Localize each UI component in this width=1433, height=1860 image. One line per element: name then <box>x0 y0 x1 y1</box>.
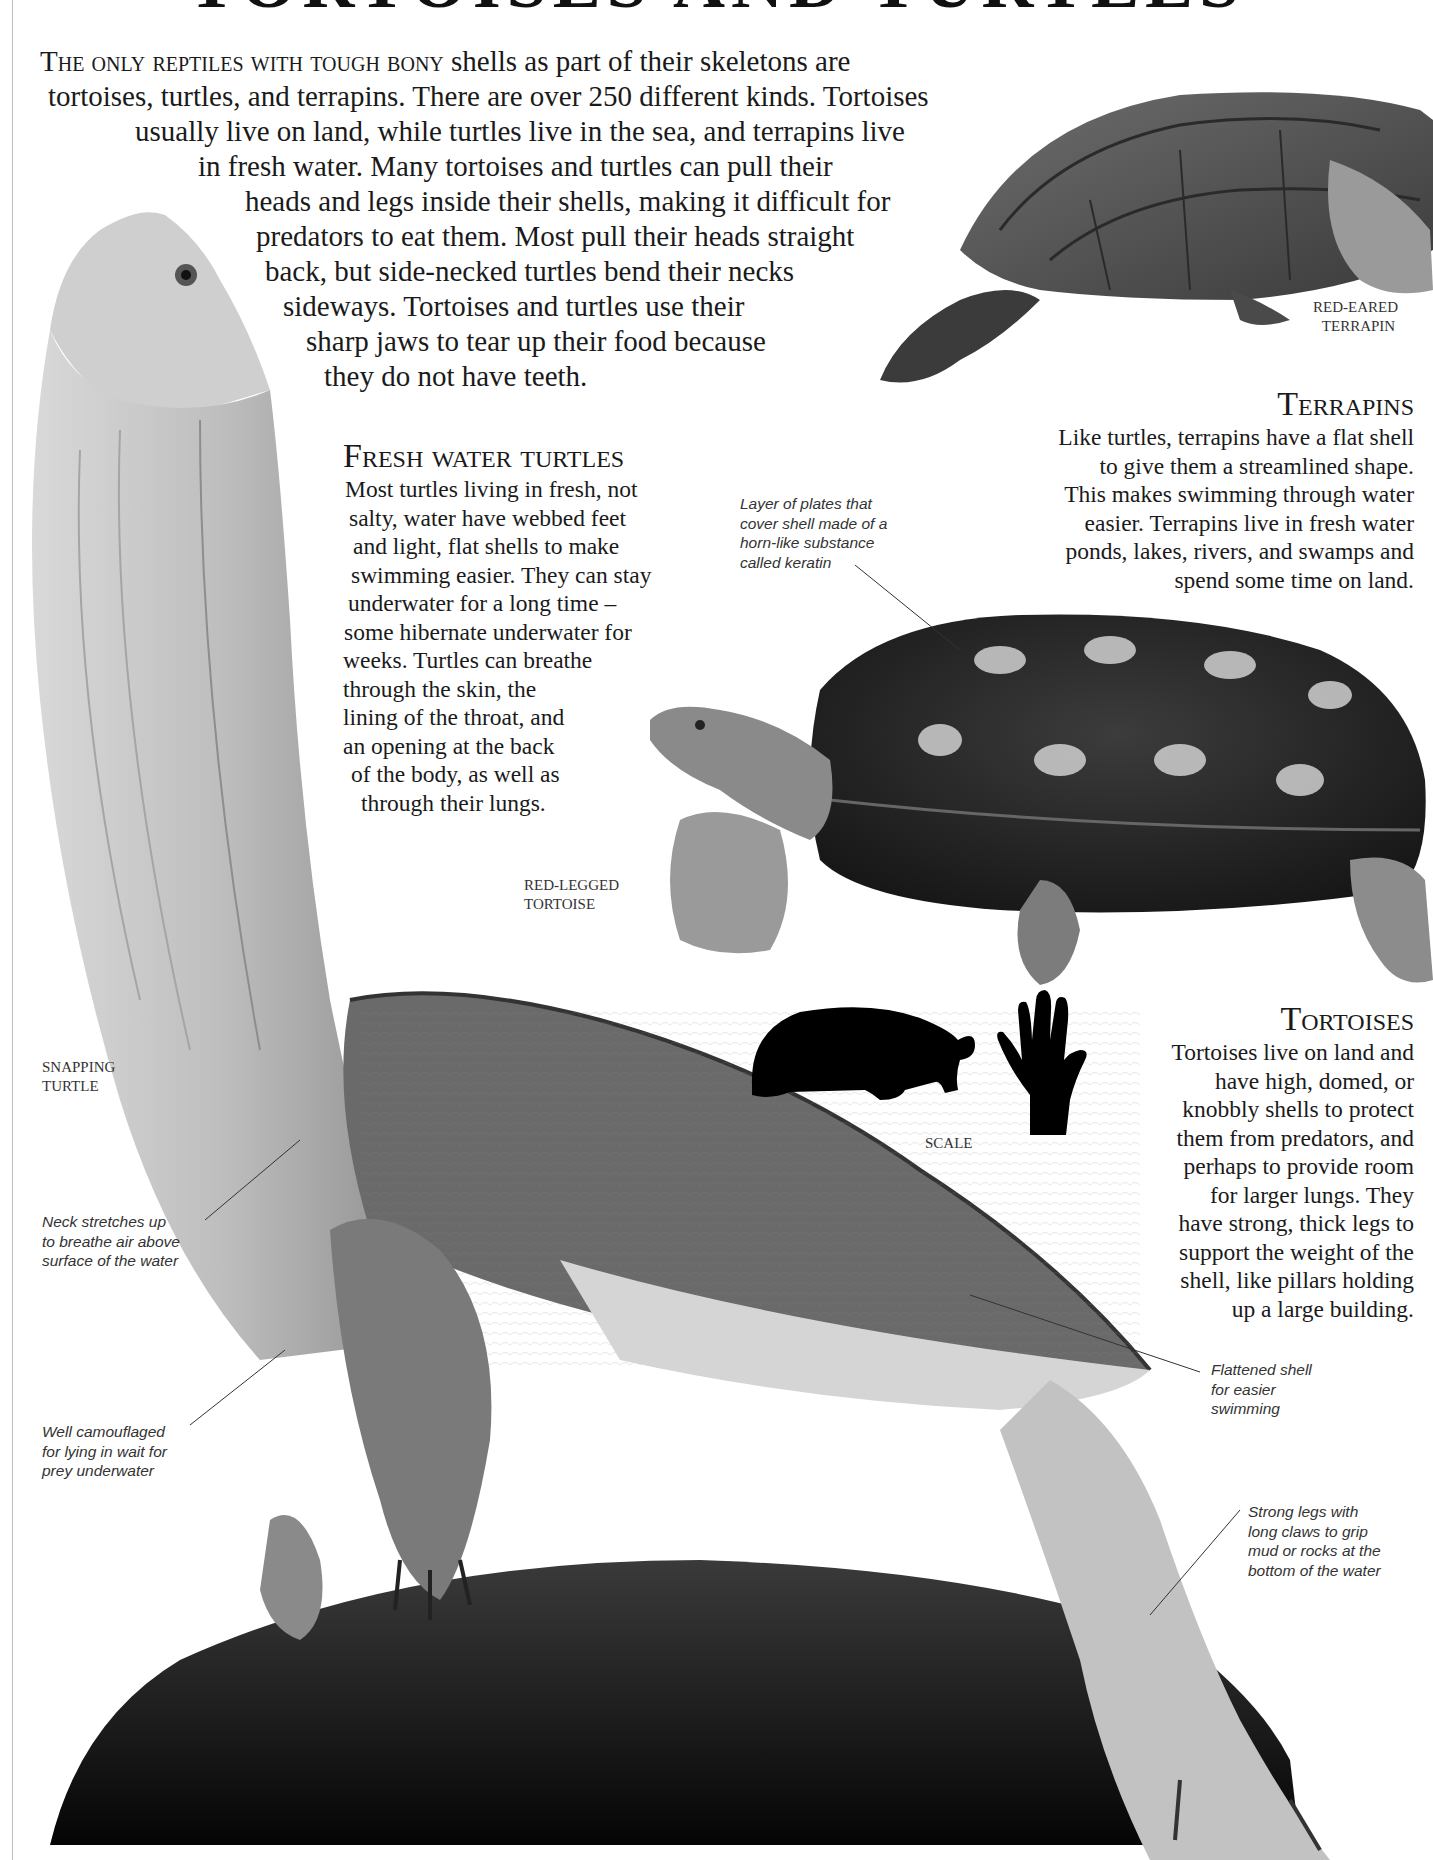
section-heading: Terrapins <box>990 385 1414 423</box>
body-line: Like turtles, terrapins have a flat shel… <box>990 423 1414 452</box>
annotation-line: swimming <box>1211 1399 1312 1419</box>
body-line: have strong, thick legs to <box>1110 1209 1414 1238</box>
section-body: Like turtles, terrapins have a flat shel… <box>990 423 1414 594</box>
intro-line: sharp jaws to tear up their food because <box>306 324 766 359</box>
annotation-line: mud or rocks at the <box>1248 1541 1381 1561</box>
annotation-camouflage: Well camouflaged for lying in wait for p… <box>42 1422 167 1481</box>
body-line: spend some time on land. <box>990 566 1414 595</box>
intro-line: sideways. Tortoises and turtles use thei… <box>283 289 744 324</box>
caption-line: Snapping <box>42 1058 115 1077</box>
body-line: This makes swimming through water <box>990 480 1414 509</box>
body-line: weeks. Turtles can breathe <box>343 646 703 675</box>
annotation-line: to breathe air above <box>42 1232 180 1252</box>
annotation-line: Layer of plates that <box>740 494 887 514</box>
annotation-line: Flattened shell <box>1211 1360 1312 1380</box>
page-title: TORTOISES AND TURTLES <box>0 0 1433 14</box>
intro-line: in fresh water. Many tortoises and turtl… <box>198 149 833 184</box>
caption-line: turtle <box>42 1077 115 1096</box>
annotation-line: for lying in wait for <box>42 1442 167 1462</box>
annotation-keratin: Layer of plates that cover shell made of… <box>740 494 887 572</box>
section-tortoises: Tortoises Tortoises live on land and hav… <box>1110 1000 1414 1323</box>
body-line: underwater for a long time – <box>343 589 703 618</box>
body-line: shell, like pillars holding <box>1110 1266 1414 1295</box>
caption-line: tortoise <box>524 895 619 914</box>
annotation-line: bottom of the water <box>1248 1561 1381 1581</box>
annotation-line: called keratin <box>740 553 887 573</box>
annotation-line: for easier <box>1211 1380 1312 1400</box>
body-line: through their lungs. <box>343 789 703 818</box>
caption-line: Red-legged <box>524 876 619 895</box>
annotation-line: Well camouflaged <box>42 1422 167 1442</box>
intro-line: tortoises, turtles, and terrapins. There… <box>48 79 929 114</box>
annotation-line: cover shell made of a <box>740 514 887 534</box>
annotation-flattened-shell: Flattened shell for easier swimming <box>1211 1360 1312 1419</box>
section-body: Tortoises live on land and have high, do… <box>1110 1038 1414 1323</box>
body-line: perhaps to provide room <box>1110 1152 1414 1181</box>
body-line: swimming easier. They can stay <box>343 561 703 590</box>
intro-line: back, but side-necked turtles bend their… <box>265 254 794 289</box>
intro-line: they do not have teeth. <box>324 359 587 394</box>
section-body: Most turtles living in fresh, not salty,… <box>343 475 703 817</box>
annotation-line: surface of the water <box>42 1251 180 1271</box>
photo-terrapin <box>880 92 1433 382</box>
body-line: and light, flat shells to make <box>343 532 703 561</box>
body-line: have high, domed, or <box>1110 1067 1414 1096</box>
annotation-neck: Neck stretches up to breathe air above s… <box>42 1212 180 1271</box>
annotation-line: prey underwater <box>42 1461 167 1481</box>
caption-line: Red-eared <box>1313 298 1398 317</box>
photo-tortoise <box>650 614 1433 985</box>
intro-line-1-rest: shells as part of their skeletons are <box>444 45 851 77</box>
body-line: to give them a streamlined shape. <box>990 452 1414 481</box>
body-line: an opening at the back <box>343 732 703 761</box>
intro-line: predators to eat them. Most pull their h… <box>256 219 854 254</box>
body-line: lining of the throat, and <box>343 703 703 732</box>
body-line: Tortoises live on land and <box>1110 1038 1414 1067</box>
body-line: Most turtles living in fresh, not <box>343 475 703 504</box>
annotation-line: horn-like substance <box>740 533 887 553</box>
section-terrapins: Terrapins Like turtles, terrapins have a… <box>990 385 1414 594</box>
body-line: ponds, lakes, rivers, and swamps and <box>990 537 1414 566</box>
annotation-strong-legs: Strong legs with long claws to grip mud … <box>1248 1502 1381 1580</box>
body-line: knobbly shells to protect <box>1110 1095 1414 1124</box>
annotation-line: Strong legs with <box>1248 1502 1381 1522</box>
body-line: support the weight of the <box>1110 1238 1414 1267</box>
body-line: them from predators, and <box>1110 1124 1414 1153</box>
caption-snapping-turtle: Snapping turtle <box>42 1058 115 1096</box>
caption-line: terrapin <box>1313 317 1398 336</box>
intro-lead-smallcaps: The only reptiles with tough bony <box>40 45 444 77</box>
intro-line-1: The only reptiles with tough bony shells… <box>40 44 850 79</box>
body-line: for larger lungs. They <box>1110 1181 1414 1210</box>
body-line: of the body, as well as <box>343 760 703 789</box>
section-heading: Tortoises <box>1110 1000 1414 1038</box>
intro-line: usually live on land, while turtles live… <box>135 114 905 149</box>
caption-red-eared-terrapin: Red-eared terrapin <box>1313 298 1398 336</box>
body-line: easier. Terrapins live in fresh water <box>990 509 1414 538</box>
intro-line: heads and legs inside their shells, maki… <box>245 184 890 219</box>
page-title-clip: TORTOISES AND TURTLES <box>0 0 1433 14</box>
section-fresh-water-turtles: Fresh water turtles Most turtles living … <box>343 437 703 817</box>
body-line: salty, water have webbed feet <box>343 504 703 533</box>
caption-scale: Scale <box>925 1134 973 1153</box>
body-line: some hibernate underwater for <box>343 618 703 647</box>
annotation-line: Neck stretches up <box>42 1212 180 1232</box>
body-line: through the skin, the <box>343 675 703 704</box>
body-line: up a large building. <box>1110 1295 1414 1324</box>
section-heading: Fresh water turtles <box>343 437 703 475</box>
annotation-line: long claws to grip <box>1248 1522 1381 1542</box>
caption-red-legged-tortoise: Red-legged tortoise <box>524 876 619 914</box>
